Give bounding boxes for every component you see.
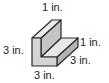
dimension-label-bottom: 3 in. [34, 70, 55, 81]
dimension-label-left: 3 in. [3, 45, 24, 56]
dimension-label-right-lower: 3 in. [70, 55, 91, 66]
dimension-label-top: 1 in. [42, 2, 63, 13]
dimension-label-right-upper: 1 in. [80, 37, 101, 48]
l-shaped-solid-diagram: 1 in. 3 in. 1 in. 3 in. 3 in. [0, 0, 109, 83]
